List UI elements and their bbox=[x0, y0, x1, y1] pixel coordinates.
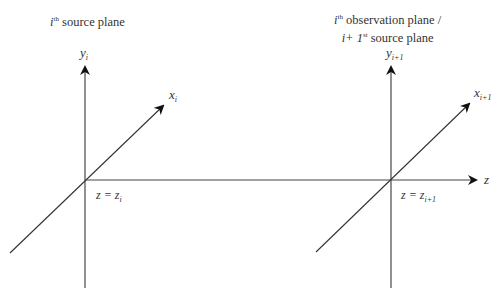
prefix: i+ 1 bbox=[342, 31, 363, 45]
right-plane-title: ith observation plane / i+ 1st source pl… bbox=[334, 10, 441, 46]
left-y-axis-label: yi bbox=[80, 45, 88, 62]
right-z-position-label: z = zi+1 bbox=[401, 188, 436, 204]
title-suffix: source plane bbox=[59, 15, 125, 29]
right-x-axis-label: xi+1 bbox=[474, 85, 491, 102]
sub: i bbox=[119, 195, 121, 204]
sub: i+1 bbox=[392, 53, 404, 62]
sub: i+1 bbox=[480, 93, 492, 102]
suffix: observation plane / bbox=[343, 13, 441, 27]
optical-planes-diagram: ith source plane yi xi z = zi ith observ… bbox=[0, 0, 499, 299]
right-x-axis bbox=[316, 104, 469, 252]
sub: i bbox=[86, 53, 88, 62]
eq: z = z bbox=[401, 188, 424, 202]
left-z-position-label: z = zi bbox=[96, 188, 122, 204]
right-title-line2: i+ 1st source plane bbox=[334, 28, 441, 46]
suffix: source plane bbox=[368, 31, 434, 45]
eq: z = z bbox=[96, 188, 119, 202]
right-y-axis-label: yi+1 bbox=[386, 45, 403, 62]
sub: i bbox=[175, 95, 177, 104]
left-x-axis-label: xi bbox=[169, 87, 177, 104]
right-title-line1: ith observation plane / bbox=[334, 10, 441, 28]
z-axis-label: z bbox=[484, 172, 489, 188]
left-plane-title: ith source plane bbox=[50, 12, 125, 30]
sub: i+1 bbox=[424, 195, 436, 204]
